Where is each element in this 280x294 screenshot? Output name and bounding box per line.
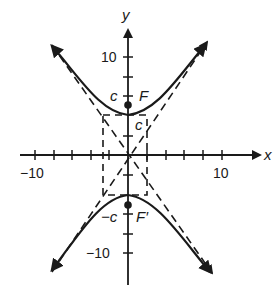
label-focus-lower: F′ (136, 208, 149, 225)
x-axis-label: x (263, 146, 272, 163)
x-tick-label-10: 10 (213, 165, 229, 181)
y-axis: y 10 −10 (86, 6, 133, 285)
y-tick-label-10: 10 (101, 49, 117, 65)
y-axis-arrow-icon (123, 28, 133, 38)
x-tick-label-neg10: −10 (20, 165, 44, 181)
hyperbola-figure: x −10 10 y 10 −10 c F c −c F′ (0, 0, 280, 294)
label-c-box: c (135, 116, 143, 133)
x-axis-arrow-icon (252, 150, 262, 160)
focus-lower-point (124, 201, 132, 209)
y-tick-label-neg10: −10 (86, 245, 110, 261)
label-c-upper: c (110, 87, 118, 104)
label-focus-upper: F (139, 87, 149, 104)
label-c-lower: −c (101, 208, 118, 225)
x-axis: x −10 10 (20, 146, 272, 181)
focus-upper-point (124, 101, 132, 109)
y-axis-label: y (121, 6, 131, 23)
